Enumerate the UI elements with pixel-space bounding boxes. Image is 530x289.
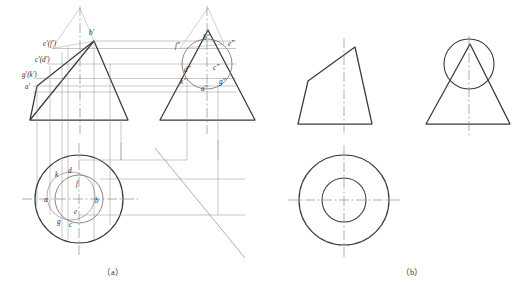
label-b-double-prime: b" xyxy=(203,34,211,42)
part-a-group: e'(f') b' c'(d') g'(k') a' f" b" e" d" c… xyxy=(22,6,255,277)
apex-construction-triangle xyxy=(52,8,94,49)
front-outline-b xyxy=(298,47,372,124)
label-e-double-prime: e" xyxy=(228,40,235,48)
label-f: f xyxy=(76,180,79,188)
label-k: k xyxy=(55,171,59,179)
figure-container: e'(f') b' c'(d') g'(k') a' f" b" e" d" c… xyxy=(0,0,530,289)
label-e-f-prime: e'(f') xyxy=(43,40,57,48)
side-view-b xyxy=(426,36,510,136)
projection-lines-top-to-miter xyxy=(79,160,245,215)
label-k-double-prime: k" xyxy=(180,78,187,86)
label-g-k-prime: g'(k') xyxy=(22,71,37,79)
miter-line-45 xyxy=(155,148,245,258)
front-view-b xyxy=(298,38,372,136)
label-a: a xyxy=(44,196,48,204)
top-view-b xyxy=(288,145,402,257)
label-c-d-prime: c'(d') xyxy=(35,56,50,64)
label-d: d xyxy=(68,167,72,175)
part-b-group: （b） xyxy=(288,36,510,277)
label-g-double-prime: g" xyxy=(219,78,227,86)
projection-lines-vertical-a xyxy=(37,41,121,240)
label-f-double-prime: f" xyxy=(175,42,181,50)
label-a-double-prime: a" xyxy=(201,85,209,93)
front-view-a xyxy=(30,6,128,134)
label-e: e xyxy=(74,208,78,216)
engineering-drawing: e'(f') b' c'(d') g'(k') a' f" b" e" d" c… xyxy=(0,0,530,289)
top-inner-circle-offset-a xyxy=(47,172,95,220)
caption-a: （a） xyxy=(102,267,124,277)
side-outline-b xyxy=(426,44,510,124)
label-a-prime: a' xyxy=(25,83,31,91)
label-b-prime: b' xyxy=(89,29,95,37)
label-d-double-prime: d" xyxy=(184,66,192,74)
label-g: g xyxy=(57,218,61,226)
caption-b: （b） xyxy=(401,267,423,277)
label-b: b xyxy=(95,197,99,205)
label-c-double-prime: c" xyxy=(213,64,220,72)
side-view-a xyxy=(160,6,255,134)
reference-frame-a xyxy=(121,140,218,215)
